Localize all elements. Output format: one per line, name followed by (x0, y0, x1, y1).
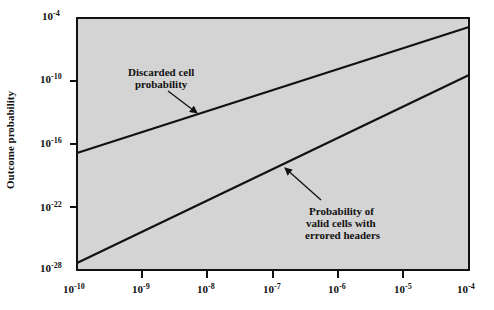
x-tick-label: 10-4 (457, 283, 475, 295)
plot-area (77, 18, 469, 270)
x-tick-label: 10-5 (394, 283, 412, 295)
y-axis-label: Outcome probability (4, 70, 16, 210)
annotation-valid-errored: Probability of valid cells with errored … (305, 205, 380, 241)
annotation-line: errored headers (305, 229, 380, 241)
y-tick-label: 10-22 (40, 201, 62, 213)
y-tick-label: 10-4 (42, 10, 60, 22)
x-tick-label: 10-7 (263, 283, 281, 295)
x-tick-label: 10-10 (63, 283, 85, 295)
annotation-line: Probability of (305, 205, 380, 217)
y-tick-label: 10-28 (40, 262, 62, 274)
annotation-discarded-cell: Discarded cell probability (128, 66, 194, 90)
annotation-line: valid cells with (305, 217, 380, 229)
x-tick-label: 10-8 (197, 283, 215, 295)
x-tick-label: 10-6 (328, 283, 346, 295)
annotation-line: Discarded cell (128, 66, 194, 78)
y-tick-label: 10-10 (40, 73, 62, 85)
y-axis-ticks (70, 81, 77, 207)
x-axis-ticks (142, 270, 403, 278)
x-tick-label: 10-9 (132, 283, 150, 295)
annotation-line: probability (128, 78, 194, 90)
y-tick-label: 10-16 (40, 137, 62, 149)
chart-canvas (0, 0, 494, 310)
